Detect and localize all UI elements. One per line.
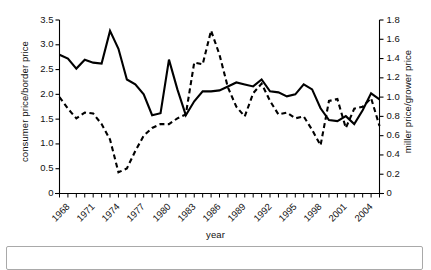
y-axis-right-ticks — [380, 20, 384, 194]
y-axis-left-tick-label: 2.5 — [28, 63, 54, 74]
y-axis-left-tick-label: 0.5 — [28, 162, 54, 173]
y-axis-right-tick-label: 1.8 — [387, 14, 413, 25]
y-axis-right-tick-label: 1.2 — [387, 71, 413, 82]
y-axis-right-tick-label: 0.4 — [387, 148, 413, 159]
y-axis-right-tick-label: 1.4 — [387, 52, 413, 63]
y-axis-left-tick-label: 0 — [28, 187, 54, 198]
y-axis-right-tick-label: 0.8 — [387, 110, 413, 121]
caption-box — [6, 246, 423, 270]
y-axis-right-tick-label: 1.0 — [387, 91, 413, 102]
y-axis-left-tick-label: 3.0 — [28, 38, 54, 49]
series-line-2 — [60, 31, 380, 173]
x-axis-ticks — [60, 194, 380, 198]
y-axis-right-tick-label: 1.6 — [387, 33, 413, 44]
y-axis-left-tick-label: 1.0 — [28, 137, 54, 148]
y-axis-left-tick-label: 3.5 — [28, 14, 54, 25]
data-series-layer — [60, 31, 380, 173]
y-axis-right-tick-label: 0 — [387, 187, 413, 198]
y-axis-left-ticks — [56, 20, 60, 194]
y-axis-right-tick-label: 0.2 — [387, 168, 413, 179]
y-axis-right-tick-label: 0.6 — [387, 129, 413, 140]
axis-lines — [55, 20, 384, 194]
y-axis-left-tick-label: 2.0 — [28, 88, 54, 99]
series-line-1 — [60, 31, 380, 124]
y-axis-left-tick-label: 1.5 — [28, 113, 54, 124]
